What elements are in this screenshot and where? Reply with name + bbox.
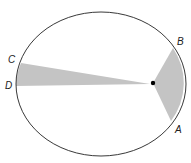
label-d: D	[5, 80, 12, 91]
focus-dot	[151, 81, 155, 85]
label-c: C	[8, 54, 16, 65]
label-b: B	[177, 36, 184, 47]
sector-cd	[16, 63, 150, 86]
orbit-diagram: B A C D	[0, 0, 191, 163]
sector-ab	[153, 48, 184, 121]
label-a: A	[174, 124, 182, 135]
